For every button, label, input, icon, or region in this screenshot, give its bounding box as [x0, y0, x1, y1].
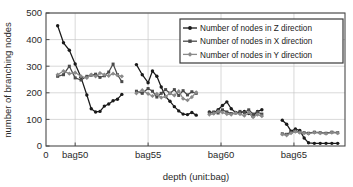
x-tick-label: bag60	[208, 149, 234, 160]
data-point	[173, 88, 176, 91]
data-point	[168, 100, 171, 103]
data-point	[56, 24, 59, 27]
data-point	[252, 113, 255, 116]
data-point	[150, 94, 154, 98]
data-point	[146, 81, 149, 84]
data-point	[155, 75, 158, 78]
y-tick-label: 400	[26, 34, 42, 45]
x-tick-label: bag55	[135, 149, 161, 160]
data-point	[120, 74, 124, 78]
data-point	[62, 73, 65, 76]
data-point	[186, 93, 189, 96]
data-point	[107, 71, 110, 74]
data-point	[135, 63, 138, 66]
data-point	[195, 113, 198, 116]
data-point	[68, 49, 71, 52]
data-point	[177, 109, 180, 112]
legend-item-z[interactable]: Number of nodes in Z direction	[183, 24, 312, 33]
x-tick-label: bag65	[281, 149, 307, 160]
data-point	[73, 62, 76, 65]
data-point	[112, 63, 115, 66]
y-tick-label: 500	[26, 7, 42, 18]
data-point	[151, 90, 154, 93]
y-tick-label: 100	[26, 114, 42, 125]
data-point	[336, 142, 339, 145]
data-point	[230, 107, 233, 110]
data-point	[74, 76, 77, 79]
data-point	[147, 87, 150, 90]
data-point	[160, 85, 163, 88]
data-point	[164, 88, 167, 91]
data-point	[190, 111, 193, 114]
data-point	[221, 104, 224, 107]
data-point	[186, 113, 189, 116]
data-point	[94, 110, 97, 113]
data-point	[281, 118, 284, 121]
data-point	[141, 92, 144, 95]
chart-figure: 01002003004005000bag50bag55bag60bag65 Nu…	[0, 0, 353, 187]
data-point	[173, 105, 176, 108]
data-point	[90, 107, 93, 110]
data-point	[285, 122, 288, 125]
data-point	[181, 112, 184, 115]
legend-marker	[188, 40, 191, 43]
legend-label: Number of nodes in Z direction	[200, 24, 312, 33]
legend-label: Number of nodes in X direction	[200, 37, 313, 46]
y-axis-label: number of branching nodes	[2, 22, 13, 138]
data-point	[141, 73, 144, 76]
data-point	[260, 108, 263, 111]
data-point	[225, 100, 228, 103]
series-y	[56, 69, 340, 138]
data-point	[182, 89, 185, 92]
legend-item-y[interactable]: Number of nodes in Y direction	[183, 51, 313, 60]
x-tick-label: bag50	[62, 149, 88, 160]
data-point	[324, 142, 327, 145]
data-point	[111, 72, 115, 76]
data-point	[80, 79, 83, 82]
data-point	[120, 93, 123, 96]
data-point	[107, 102, 110, 105]
chart-legend[interactable]: Number of nodes in Z directionNumber of …	[180, 19, 343, 63]
data-point	[151, 69, 154, 72]
data-point	[85, 93, 88, 96]
data-point	[62, 41, 65, 44]
data-point	[155, 96, 158, 99]
y-tick-label: 300	[26, 61, 42, 72]
data-point	[103, 104, 106, 107]
data-point	[319, 142, 322, 145]
data-point	[302, 136, 305, 139]
data-point	[68, 65, 71, 68]
data-point	[98, 110, 101, 113]
legend-label: Number of nodes in Y direction	[200, 51, 313, 60]
data-point	[67, 72, 71, 76]
data-point	[111, 99, 114, 102]
data-point	[313, 142, 316, 145]
data-point	[98, 76, 101, 79]
data-point	[330, 142, 333, 145]
data-point	[243, 111, 246, 114]
data-point	[160, 92, 163, 95]
data-point	[107, 74, 111, 78]
legend-marker	[188, 26, 192, 30]
data-point	[177, 94, 180, 97]
legend-item-x[interactable]: Number of nodes in X direction	[183, 37, 313, 46]
data-point	[190, 90, 193, 93]
y-tick-label: 0	[37, 140, 42, 151]
data-point	[307, 141, 310, 144]
x-axis-label: depth (unit:bag)	[163, 171, 230, 182]
data-point	[120, 80, 123, 83]
branching-nodes-line-chart: 01002003004005000bag50bag55bag60bag65 Nu…	[0, 0, 353, 187]
data-point	[116, 97, 119, 100]
y-tick-label: 200	[26, 87, 42, 98]
x-tick-label: 0	[43, 149, 48, 160]
